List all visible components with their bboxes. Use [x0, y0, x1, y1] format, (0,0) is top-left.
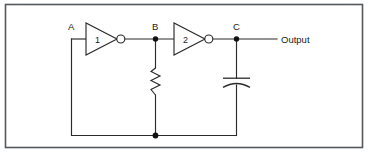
inverter-gate-2: 2	[174, 23, 213, 55]
inverter-1-bubble-icon	[117, 35, 125, 43]
junction-dot-bottom-rail	[153, 133, 159, 139]
inverter-2-bubble-icon	[205, 35, 213, 43]
inverter-1-triangle	[86, 23, 117, 55]
inverter-2-number-label: 2	[183, 35, 188, 45]
output-terminal-label: Output	[281, 34, 310, 45]
junction-dot-node-c	[234, 36, 239, 41]
inverter-2-triangle	[174, 23, 205, 55]
inverter-gate-1: 1	[86, 23, 125, 55]
junction-dot-node-b	[153, 36, 158, 41]
inverter-1-number-label: 1	[95, 35, 100, 45]
schematic-figure: 1 2 A B C Output	[0, 0, 370, 155]
feedback-wire-bottom	[72, 39, 237, 136]
node-label-b: B	[152, 21, 158, 32]
figure-frame-border	[6, 5, 363, 148]
resistor-zigzag-path	[151, 68, 160, 95]
node-label-a: A	[68, 21, 75, 32]
resistor-symbol	[151, 68, 160, 95]
node-label-c: C	[233, 21, 240, 32]
circuit-schematic-svg: 1 2 A B C Output	[0, 0, 370, 155]
